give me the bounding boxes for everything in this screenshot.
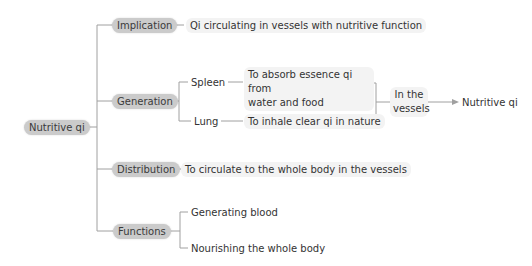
function-item-text: Nourishing the whole body <box>191 243 325 254</box>
implication-detail-text: Qi circulating in vessels with nutritive… <box>190 20 422 31</box>
distribution-node[interactable]: Distribution <box>112 162 180 177</box>
root-label: Nutritive qi <box>29 122 85 133</box>
functions-node[interactable]: Functions <box>113 224 171 239</box>
implication-detail: Qi circulating in vessels with nutritive… <box>186 18 426 33</box>
generation-node[interactable]: Generation <box>112 94 178 109</box>
in-vessels-node: In the vessels <box>390 87 428 117</box>
in-vessels-line2: vessels <box>393 102 425 116</box>
spleen-detail: To absorb essence qi from water and food <box>244 67 374 111</box>
distribution-detail: To circulate to the whole body in the ve… <box>181 162 411 177</box>
distribution-label: Distribution <box>117 164 175 175</box>
function-item-text: Generating blood <box>191 207 278 218</box>
implication-node[interactable]: Implication <box>112 18 177 33</box>
root-node[interactable]: Nutritive qi <box>24 120 90 135</box>
generation-label: Generation <box>117 96 173 107</box>
functions-label: Functions <box>118 226 166 237</box>
spleen-label: Spleen <box>191 77 225 88</box>
spleen-detail-line1: To absorb essence qi from <box>248 68 370 96</box>
result-label: Nutritive qi <box>462 97 518 108</box>
spleen-node[interactable]: Spleen <box>188 75 228 90</box>
result-node: Nutritive qi <box>459 95 521 110</box>
lung-label: Lung <box>194 116 218 127</box>
in-vessels-line1: In the <box>393 88 425 102</box>
distribution-detail-text: To circulate to the whole body in the ve… <box>185 164 407 175</box>
mind-map: Nutritive qi Implication Qi circulating … <box>0 0 532 266</box>
function-item: Nourishing the whole body <box>188 241 328 256</box>
spleen-detail-line2: water and food <box>248 96 370 110</box>
arrow-head-icon <box>452 99 459 105</box>
implication-label: Implication <box>117 20 172 31</box>
lung-detail: To inhale clear qi in nature <box>244 114 385 129</box>
lung-detail-text: To inhale clear qi in nature <box>248 116 381 127</box>
function-item: Generating blood <box>188 205 281 220</box>
lung-node[interactable]: Lung <box>191 114 221 129</box>
